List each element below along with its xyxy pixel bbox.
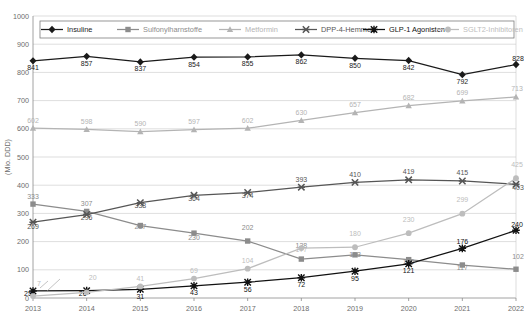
series-dpp-4-hemmer: 269296338364374393410419415403 — [27, 168, 524, 229]
series-line — [33, 204, 516, 269]
data-label: 121 — [403, 267, 415, 274]
y-axis-tick: 900 — [17, 40, 29, 49]
data-label: 590 — [134, 120, 146, 127]
data-label: 854 — [188, 61, 200, 68]
data-label: 296 — [81, 214, 93, 221]
data-point-marker — [191, 276, 197, 282]
y-axis-tick: 600 — [17, 124, 29, 133]
data-label: 602 — [27, 117, 39, 124]
data-label: 102 — [512, 253, 524, 260]
data-label: 597 — [188, 118, 200, 125]
y-axis-title: (Mio. DDD) — [3, 139, 12, 175]
series-insuline: 841857837854855862850842792828 — [27, 51, 524, 85]
series-line — [33, 178, 516, 296]
data-label: 7 — [37, 280, 41, 287]
data-point-marker — [245, 266, 251, 272]
data-label: 177 — [295, 246, 307, 253]
x-axis-tick: 2015 — [132, 304, 148, 313]
data-label: 713 — [511, 85, 523, 92]
data-point-marker — [513, 267, 518, 272]
series-sglt2-inhibitoren: 7204169104177180230299425 — [30, 161, 523, 299]
data-point-marker — [30, 201, 35, 206]
data-label: 862 — [295, 58, 307, 65]
legend-label: Sulfonylharnstoffe — [143, 25, 202, 34]
data-label: 307 — [81, 200, 93, 207]
data-label: 425 — [511, 161, 523, 168]
data-point-marker — [30, 293, 36, 299]
data-point-marker — [406, 230, 412, 236]
data-label: 31 — [136, 293, 144, 300]
data-point-marker — [299, 256, 304, 261]
y-axis-tick: 500 — [17, 153, 29, 162]
data-label: 419 — [403, 168, 415, 175]
series-line — [33, 97, 516, 132]
data-label: 699 — [456, 89, 468, 96]
legend-label: GLP-1 Agonisten — [389, 25, 445, 34]
data-point-marker — [370, 26, 378, 34]
data-point-marker — [352, 244, 358, 250]
data-point-marker — [459, 178, 466, 184]
data-point-marker — [445, 27, 451, 33]
data-label: 257 — [134, 223, 146, 230]
series-line — [33, 230, 516, 291]
data-label: 828 — [512, 55, 524, 62]
data-label: 855 — [242, 60, 254, 67]
data-point-marker — [351, 179, 358, 185]
data-label: 240 — [511, 221, 523, 228]
data-label: 393 — [295, 176, 307, 183]
x-axis-tick: 2017 — [240, 304, 256, 313]
data-label: 333 — [27, 193, 39, 200]
data-label: 20 — [89, 274, 97, 281]
x-axis-tick: 2022 — [508, 304, 524, 313]
data-label: 338 — [134, 202, 146, 209]
data-label: 180 — [349, 230, 361, 237]
data-point-marker — [459, 211, 465, 217]
data-label: 104 — [242, 257, 254, 264]
data-label: 43 — [190, 289, 198, 296]
data-label: 72 — [297, 281, 305, 288]
x-axis-tick: 2018 — [293, 304, 309, 313]
data-label: 41 — [136, 275, 144, 282]
data-label: 56 — [244, 286, 252, 293]
legend-label: Metformin — [245, 25, 278, 34]
line-chart: 01002003004005006007008009001000(Mio. DD… — [0, 0, 524, 324]
data-label: 657 — [349, 101, 361, 108]
data-label: 410 — [349, 171, 361, 178]
data-point-marker — [84, 289, 90, 295]
data-label: 682 — [403, 94, 415, 101]
data-point-marker — [513, 175, 519, 181]
legend-label: SGLT2-Inhibitoren — [463, 25, 523, 34]
data-label: 602 — [242, 117, 254, 124]
y-axis-tick: 300 — [17, 209, 29, 218]
data-point-marker — [459, 245, 467, 253]
data-label: 117 — [457, 264, 468, 271]
series-line — [33, 55, 516, 75]
data-label: 176 — [456, 238, 468, 245]
y-axis-tick: 1000 — [13, 12, 29, 21]
series-metformin: 602598590597602630657682699713 — [27, 85, 523, 134]
data-point-marker — [245, 238, 250, 243]
data-label: 230 — [188, 234, 200, 241]
data-label: 850 — [349, 62, 361, 69]
legend-label: Insuline — [67, 25, 92, 34]
data-label: 269 — [27, 223, 39, 230]
data-label: 837 — [134, 65, 146, 72]
data-point-marker — [405, 177, 412, 183]
data-label: 364 — [188, 195, 200, 202]
series-glp-1-agonisten: 25263143567295121176240 — [24, 221, 523, 300]
data-label: 857 — [81, 60, 93, 67]
y-axis-tick: 700 — [17, 96, 29, 105]
x-axis-tick: 2019 — [347, 304, 363, 313]
label-leader-line — [47, 279, 60, 291]
x-axis-tick: 2020 — [401, 304, 417, 313]
x-axis-tick: 2021 — [454, 304, 470, 313]
x-axis-tick: 2014 — [79, 304, 95, 313]
label-leader-line — [40, 281, 48, 288]
y-axis-tick: 200 — [17, 237, 29, 246]
x-axis-tick: 2013 — [25, 304, 41, 313]
data-label: 630 — [295, 109, 307, 116]
data-label: 202 — [242, 224, 254, 231]
data-label: 842 — [403, 64, 415, 71]
data-label: 299 — [456, 196, 468, 203]
data-label: 792 — [456, 78, 468, 85]
